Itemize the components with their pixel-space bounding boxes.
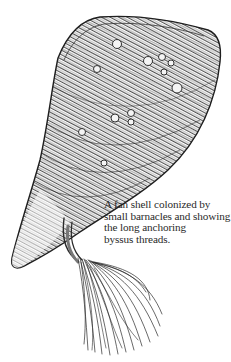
caption-line: the long anchoring — [104, 222, 231, 234]
caption-line: byssus threads. — [104, 234, 231, 246]
caption-line: A fan shell colonized by — [104, 199, 231, 211]
figure-caption: A fan shell colonized by small barnacles… — [104, 199, 231, 245]
fan-shell-illustration — [0, 0, 231, 362]
